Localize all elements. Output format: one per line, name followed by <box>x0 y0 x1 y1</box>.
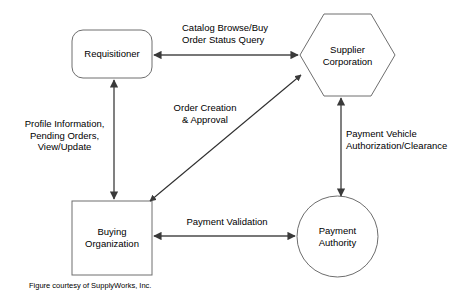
edge-label-buying-organization-supplier: Order Creation & Approval <box>159 102 251 125</box>
node-shape-payment-authority <box>297 196 378 277</box>
edge-label-buying-organization-payment-authority: Payment Validation <box>172 216 282 228</box>
edge-label-requisitioner-buying-organization: Profile Information, Pending Orders, Vie… <box>17 118 112 153</box>
edge-label-requisitioner-supplier: Catalog Browse/Buy Order Status Query <box>182 22 317 45</box>
diagram-canvas: Requisitioner Supplier Corporation Buyin… <box>0 0 476 296</box>
node-shape-buying-organization <box>72 201 152 275</box>
edge-label-supplier-payment-authority: Payment Vehicle Authorization/Clearance <box>346 128 474 151</box>
node-shape-requisitioner <box>72 30 152 78</box>
edge-buying-organization-supplier <box>150 75 301 201</box>
figure-caption: Figure courtesy of SupplyWorks, Inc. <box>29 281 151 290</box>
